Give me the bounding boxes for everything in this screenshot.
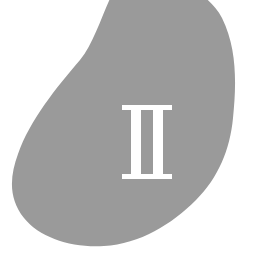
numeral-stem-left bbox=[131, 108, 141, 176]
numeral-bottom-serif bbox=[122, 174, 172, 179]
numeral-top-serif bbox=[122, 105, 172, 110]
numeral-stem-right bbox=[153, 108, 163, 176]
part-number: II bbox=[122, 105, 172, 179]
part-divider-page: II bbox=[0, 0, 263, 263]
